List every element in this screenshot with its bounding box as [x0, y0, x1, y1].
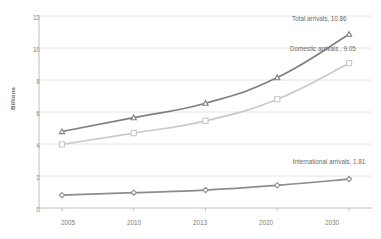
data-point-marker	[59, 129, 64, 134]
data-point-marker	[203, 118, 208, 123]
data-point-marker	[131, 115, 136, 120]
data-point-marker	[346, 61, 351, 66]
data-point-marker	[59, 193, 64, 198]
annotation-domestic-arrivals: Domestic arrivals , 9.05	[290, 45, 356, 53]
data-point-marker	[203, 187, 208, 192]
annotation-total-arrivals: Total arrivals, 10.86	[292, 15, 347, 23]
data-series-layer	[59, 32, 351, 198]
line-chart: Billions 12 10 8 6 4 2 0 2005 2010 2013 …	[0, 0, 381, 239]
data-point-marker	[346, 32, 351, 37]
plot-area	[0, 0, 381, 239]
data-point-marker	[131, 190, 136, 195]
data-point-marker	[59, 142, 64, 147]
data-point-marker	[346, 176, 351, 181]
data-point-marker	[275, 183, 280, 188]
annotation-international-arrivals: International arrivals, 1.81	[286, 158, 372, 166]
gridlines	[39, 16, 372, 176]
data-point-marker	[203, 101, 208, 106]
data-point-marker	[275, 97, 280, 102]
data-point-marker	[131, 131, 136, 136]
data-point-marker	[275, 75, 280, 80]
series-international-arrivals	[59, 176, 351, 197]
